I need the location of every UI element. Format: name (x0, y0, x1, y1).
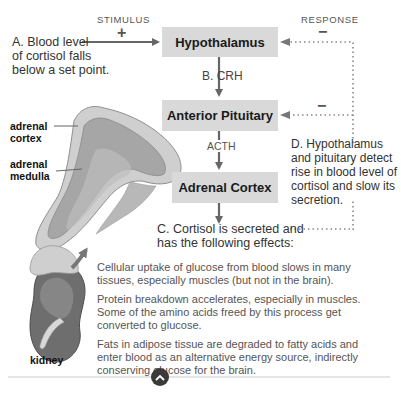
effect-item: Cellular uptake of glucose from blood sl… (97, 261, 397, 287)
anterior-pituitary-box: Anterior Pituitary (162, 100, 278, 131)
hypothalamus-box: Hypothalamus (162, 27, 278, 57)
effect-item: Protein breakdown accelerates, especiall… (97, 293, 397, 332)
stimulus-sign: + (117, 28, 126, 38)
response-label: RESPONSE (301, 14, 359, 25)
effect-item: Fats in adipose tissue are degraded to f… (97, 338, 397, 377)
step-d-text: D. Hypothalamus and pituitary detect ris… (291, 137, 397, 207)
chevron-up-icon (155, 374, 165, 381)
acth-label: ACTH (205, 140, 238, 152)
adrenal-cortex-box: Adrenal Cortex (172, 172, 278, 203)
step-c-text: C. Cortisol is secreted and has the foll… (157, 222, 304, 250)
scroll-up-button[interactable] (151, 368, 169, 386)
step-a-text: A. Blood level of cortisol falls below a… (12, 35, 109, 77)
effects-list: Cellular uptake of glucose from blood sl… (97, 261, 397, 377)
response-sign-hypothalamus: − (318, 27, 327, 37)
kidney-label: kidney (30, 354, 63, 366)
adrenal-cortex-label: adrenal cortex (10, 120, 47, 144)
response-sign-pituitary: − (317, 101, 326, 111)
adrenal-medulla-label: adrenal medulla (10, 158, 50, 182)
feedback-arrowhead-hypothalamus (280, 38, 290, 46)
feedback-arrowhead-pituitary (280, 111, 290, 119)
crh-label: B. CRH (202, 69, 243, 83)
